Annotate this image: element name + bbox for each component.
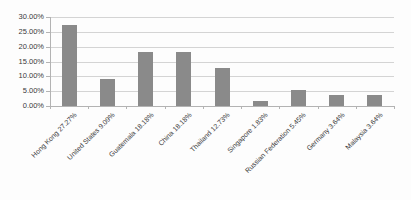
- x-axis-baseline: [50, 106, 394, 107]
- x-axis-tick: [318, 106, 319, 109]
- bar: [176, 52, 191, 106]
- y-axis-line: [50, 17, 51, 106]
- gridline: [50, 32, 394, 33]
- bar: [138, 52, 153, 106]
- bar: [329, 95, 344, 106]
- y-axis-tick-label: 0.00%: [10, 102, 44, 110]
- gridline: [50, 62, 394, 63]
- bar-chart-figure: 0.00%5.00%10.00%15.00%20.00%25.00%30.00%…: [0, 0, 411, 200]
- x-axis-tick: [165, 106, 166, 109]
- x-axis-tick: [356, 106, 357, 109]
- y-axis-tick-label: 15.00%: [10, 58, 44, 66]
- y-axis-tick-label: 30.00%: [10, 13, 44, 21]
- bar: [291, 90, 306, 106]
- bar: [215, 68, 230, 106]
- gridline: [50, 47, 394, 48]
- bar: [100, 79, 115, 106]
- y-axis-tick-label: 25.00%: [10, 28, 44, 36]
- y-axis-tick-label: 20.00%: [10, 43, 44, 51]
- x-axis-tick: [203, 106, 204, 109]
- bar: [62, 25, 77, 106]
- y-axis-tick-label: 10.00%: [10, 72, 44, 80]
- y-axis-tick-label: 5.00%: [10, 87, 44, 95]
- x-axis-tick: [126, 106, 127, 109]
- bar: [253, 101, 268, 106]
- x-axis-tick: [241, 106, 242, 109]
- gridline: [50, 17, 394, 18]
- x-axis-tick: [279, 106, 280, 109]
- bar: [367, 95, 382, 106]
- x-axis-tick: [88, 106, 89, 109]
- x-axis-tick: [50, 106, 51, 109]
- x-axis-tick: [394, 106, 395, 109]
